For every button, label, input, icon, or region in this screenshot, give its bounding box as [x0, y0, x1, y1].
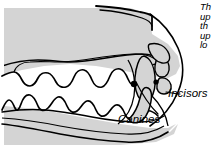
figure-page: Incisors Canines Th up th up lo — [0, 0, 224, 145]
label-canines: Canines — [118, 114, 160, 126]
canine-root-mark-2 — [153, 79, 158, 84]
gray-field-left-edge — [0, 8, 4, 68]
caption-line-5: lo — [200, 40, 224, 50]
label-incisors: Incisors — [168, 88, 208, 100]
caption-paragraph: Th up th up lo — [200, 2, 224, 50]
jaw-diagram — [0, 0, 224, 145]
